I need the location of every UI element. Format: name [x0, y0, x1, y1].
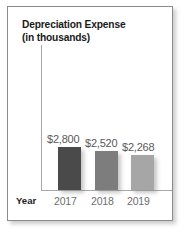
bar-value-label-2018: $2,520: [85, 137, 117, 149]
bar-2018: [95, 151, 118, 190]
x-axis-label-2017: 2017: [54, 195, 77, 207]
bar-2017: [58, 147, 81, 190]
bar-value-label-2019: $2,268: [122, 141, 154, 153]
x-axis-label-2019: 2019: [127, 195, 150, 207]
x-axis-title: Year: [16, 195, 36, 206]
chart-figure: Depreciation Expense (in thousands) $2,8…: [0, 0, 187, 232]
x-axis-label-2018: 2018: [91, 195, 114, 207]
bar-2019: [131, 155, 154, 190]
bars-layer: [0, 0, 187, 191]
bar-value-label-2017: $2,800: [47, 133, 79, 145]
